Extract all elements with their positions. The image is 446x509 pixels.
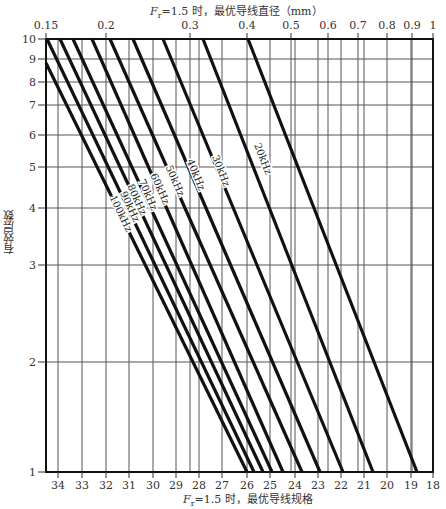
series-line bbox=[47, 39, 254, 472]
y-tick-label: 8 bbox=[29, 76, 36, 89]
bottom-tick-label: 32 bbox=[99, 479, 113, 492]
y-tick-label: 2 bbox=[29, 356, 36, 369]
bottom-tick-label: 18 bbox=[426, 479, 440, 492]
bottom-tick-label: 20 bbox=[380, 479, 394, 492]
top-tick-label: 0.2 bbox=[97, 19, 115, 32]
top-tick-label: 0.5 bbox=[282, 19, 300, 32]
bottom-tick-label: 34 bbox=[51, 479, 65, 492]
y-tick-label: 5 bbox=[29, 161, 36, 174]
top-tick-label: 0.4 bbox=[238, 19, 256, 32]
bottom-tick-label: 30 bbox=[146, 479, 160, 492]
top-tick-label: 1 bbox=[430, 19, 437, 32]
series-label: 40kHz bbox=[185, 157, 208, 191]
bottom-tick-label: 28 bbox=[192, 479, 206, 492]
y-tick-label: 3 bbox=[29, 259, 36, 272]
top-tick-label: 0.6 bbox=[319, 19, 337, 32]
series-line bbox=[73, 39, 272, 472]
bottom-tick-label: 26 bbox=[240, 479, 254, 492]
bottom-tick-label: 29 bbox=[169, 479, 183, 492]
series-label: 30kHz bbox=[210, 153, 232, 188]
bottom-tick-label: 23 bbox=[311, 479, 325, 492]
bottom-tick-label: 21 bbox=[357, 479, 371, 492]
y-tick-label: 7 bbox=[29, 99, 36, 112]
bottom-tick-label: 27 bbox=[215, 479, 229, 492]
bottom-tick-label: 33 bbox=[75, 479, 89, 492]
top-tick-label: 0.8 bbox=[378, 19, 396, 32]
top-tick-label: 0.7 bbox=[349, 19, 367, 32]
bottom-tick-label: 22 bbox=[334, 479, 348, 492]
bottom-tick-label: 31 bbox=[122, 479, 136, 492]
y-tick-label: 4 bbox=[29, 202, 36, 215]
top-tick-label: 0.9 bbox=[403, 19, 421, 32]
bottom-tick-label: 19 bbox=[404, 479, 418, 492]
top-tick-label: 0.15 bbox=[34, 19, 59, 32]
y-tick-label: 6 bbox=[29, 129, 36, 142]
y-tick-label: 1 bbox=[29, 466, 36, 479]
chart-plot: 123456789100.150.20.30.40.50.60.70.80.91… bbox=[0, 0, 446, 509]
top-tick-label: 0.3 bbox=[181, 19, 199, 32]
y-tick-label: 10 bbox=[22, 33, 36, 46]
series-line bbox=[203, 39, 373, 472]
bottom-tick-label: 25 bbox=[263, 479, 277, 492]
y-tick-label: 9 bbox=[29, 53, 36, 66]
bottom-tick-label: 24 bbox=[288, 479, 302, 492]
